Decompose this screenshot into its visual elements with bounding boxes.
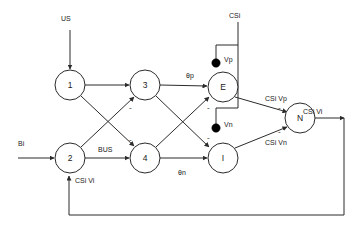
- csi-vi-feedback-label: CSi Vi: [75, 177, 95, 184]
- minus-into-3-label: -: [129, 103, 132, 112]
- node-i-label: I: [222, 153, 224, 163]
- minus-into-i-label: -: [207, 133, 210, 142]
- csi-vp-label: CSi Vp: [265, 95, 287, 103]
- edge-2-to-3: [81, 97, 134, 147]
- node-2-label: 2: [68, 153, 73, 163]
- node-1-label: 1: [68, 80, 73, 90]
- minus-into-4-label: -: [129, 135, 132, 144]
- node-3-label: 3: [143, 80, 148, 90]
- theta-n-label: θn: [178, 169, 186, 176]
- edge-1-to-4: [81, 96, 134, 146]
- csi-vn-label: CSi Vn: [265, 139, 287, 146]
- minus-n-upper-label: -: [278, 103, 281, 112]
- vp-label: Vp: [224, 56, 233, 64]
- edge-3-to-E: [160, 85, 207, 86]
- theta-p-label: θp: [186, 72, 194, 80]
- node-e-label: E: [220, 82, 226, 92]
- node-4-label: 4: [143, 153, 148, 163]
- vn-label: Vn: [224, 121, 233, 128]
- bus-label: BUS: [98, 146, 113, 153]
- vn-synapse-dot: [212, 124, 220, 132]
- minus-into-e-label: -: [207, 103, 210, 112]
- diagram-svg: 1 2 3 4 E I N US Bi CSi BUS θp θn Vp Vn …: [0, 0, 355, 233]
- bi-input-label: Bi: [18, 140, 25, 147]
- csi-vi-output-label: CSi Vi: [303, 108, 323, 115]
- minus-n-lower-label: -: [278, 127, 281, 136]
- diagram-canvas: 1 2 3 4 E I N US Bi CSi BUS θp θn Vp Vn …: [0, 0, 355, 233]
- vp-synapse-dot: [212, 59, 220, 67]
- csi-top-label: CSi: [229, 12, 241, 19]
- us-input-label: US: [61, 15, 71, 22]
